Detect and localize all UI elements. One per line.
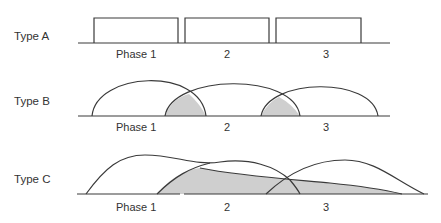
type-b-phase-1-label: Phase 1 <box>116 121 156 133</box>
type-c-phase-3-label: 3 <box>323 201 329 213</box>
type-a-phase-1-block <box>94 18 178 43</box>
type-b-overlap-1-2 <box>165 94 206 116</box>
type-a-phase-3-block <box>276 18 361 43</box>
type-b-phase-3-label: 3 <box>323 121 329 133</box>
type-a-phase-2-label: 2 <box>224 48 230 60</box>
type-a-phase-2-block <box>185 18 269 43</box>
type-b-row: Type B Phase 1 2 3 <box>14 81 390 133</box>
type-c-row: Type C Phase 1 2 3 <box>14 155 428 213</box>
type-a-phase-3-label: 3 <box>323 48 329 60</box>
type-b-label: Type B <box>14 95 50 107</box>
type-a-row: Type A Phase 1 2 3 <box>14 18 390 60</box>
phase-overlap-diagram: Type A Phase 1 2 3 Type B Phase 1 2 3 Ty… <box>0 0 441 223</box>
type-b-overlap-2-3 <box>261 97 300 116</box>
type-a-label: Type A <box>14 30 49 42</box>
type-a-phase-1-label: Phase 1 <box>116 48 156 60</box>
type-b-phase-2-label: 2 <box>224 121 230 133</box>
type-c-label: Type C <box>14 173 50 185</box>
type-c-phase-2-label: 2 <box>224 201 230 213</box>
type-c-phase-1-label: Phase 1 <box>116 201 156 213</box>
